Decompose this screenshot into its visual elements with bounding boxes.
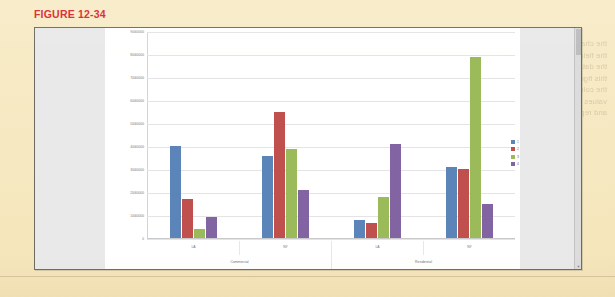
panel-right-gutter [518, 28, 581, 269]
legend-label: 1 [517, 140, 519, 144]
chart-legend: 1234 [511, 140, 519, 166]
legend-swatch-icon [511, 147, 515, 151]
legend-label: 2 [517, 147, 519, 151]
category-label-city: LA [148, 241, 240, 255]
category-label-city: NY [240, 241, 332, 255]
bar[interactable] [206, 217, 217, 238]
bar[interactable] [354, 220, 365, 238]
figure-panel: 9000000080000000700000006000000050000000… [34, 27, 582, 270]
y-axis-tick-label: 40000000 [130, 145, 144, 149]
bar[interactable] [286, 149, 297, 238]
bar[interactable] [170, 146, 181, 238]
bar-group [240, 32, 332, 238]
legend-item[interactable]: 2 [511, 147, 519, 151]
panel-scrollbar[interactable]: ▲ ▼ [574, 28, 581, 269]
category-row-type: CommercialResidential [148, 255, 515, 270]
panel-left-gutter [35, 28, 105, 269]
bar[interactable] [446, 167, 457, 238]
y-axis-tick-label: 50000000 [130, 122, 144, 126]
legend-swatch-icon [511, 162, 515, 166]
figure-caption: FIGURE 12-34 [34, 8, 106, 20]
bar[interactable] [482, 204, 493, 238]
bar[interactable] [458, 169, 469, 238]
scrollbar-thumb[interactable] [576, 29, 581, 55]
category-row-city: LANYLANY [148, 241, 515, 255]
legend-item[interactable]: 4 [511, 162, 519, 166]
page-bottom-rule [0, 276, 615, 277]
bar-series-container [148, 32, 515, 238]
bar[interactable] [182, 199, 193, 238]
bar-group [332, 32, 424, 238]
legend-item[interactable]: 3 [511, 155, 519, 159]
bar[interactable] [470, 57, 481, 238]
bar[interactable] [262, 156, 273, 238]
y-axis-tick-label: 10000000 [130, 214, 144, 218]
y-axis-tick-label: 70000000 [130, 76, 144, 80]
legend-label: 4 [517, 162, 519, 166]
y-axis-tick-label: 0 [142, 237, 144, 241]
bar[interactable] [390, 144, 401, 238]
legend-label: 3 [517, 155, 519, 159]
legend-swatch-icon [511, 155, 515, 159]
category-label-city: NY [424, 241, 515, 255]
category-label-type: Commercial [148, 255, 332, 270]
bar[interactable] [366, 223, 377, 238]
category-axis: LANYLANY CommercialResidential [148, 239, 515, 270]
bar[interactable] [378, 197, 389, 238]
bar[interactable] [194, 229, 205, 238]
category-label-type: Residential [332, 255, 515, 270]
y-axis-tick-label: 90000000 [130, 30, 144, 34]
category-label-city: LA [332, 241, 424, 255]
bar-group [423, 32, 515, 238]
y-axis-tick-label: 20000000 [130, 191, 144, 195]
legend-swatch-icon [511, 140, 515, 144]
bar[interactable] [274, 112, 285, 238]
legend-item[interactable]: 1 [511, 140, 519, 144]
bar-group [148, 32, 240, 238]
y-axis-tick-label: 30000000 [130, 168, 144, 172]
y-axis-tick-label: 80000000 [130, 53, 144, 57]
chart-card: 9000000080000000700000006000000050000000… [105, 28, 520, 270]
bar[interactable] [298, 190, 309, 238]
plot-area: 9000000080000000700000006000000050000000… [147, 32, 515, 239]
scrollbar-down-arrow-icon[interactable]: ▼ [576, 264, 581, 269]
y-axis-tick-label: 60000000 [130, 99, 144, 103]
